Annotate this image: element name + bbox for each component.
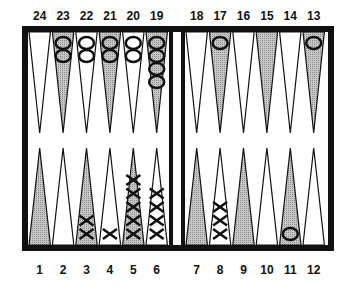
checker-o[interactable] — [149, 63, 164, 75]
bar-right-edge — [181, 29, 185, 248]
bar-left-edge — [169, 29, 173, 248]
point-label-22: 22 — [80, 9, 94, 23]
point-label-14: 14 — [284, 9, 298, 23]
point-label-16: 16 — [237, 9, 251, 23]
top-point-labels: 242322212019181716151413 — [33, 9, 321, 23]
checker-o[interactable] — [149, 37, 164, 49]
checker-o[interactable] — [56, 50, 71, 62]
point-label-4: 4 — [107, 263, 114, 277]
point-label-23: 23 — [56, 9, 70, 23]
point-label-21: 21 — [103, 9, 117, 23]
point-label-13: 13 — [307, 9, 321, 23]
point-label-7: 7 — [193, 263, 200, 277]
checker-o[interactable] — [283, 228, 298, 240]
checker-o[interactable] — [149, 76, 164, 88]
point-label-15: 15 — [260, 9, 274, 23]
checker-o[interactable] — [126, 37, 141, 49]
checker-o[interactable] — [79, 50, 94, 62]
checker-o[interactable] — [56, 37, 71, 49]
point-label-11: 11 — [284, 263, 297, 277]
bottom-point-labels: 123456789101112 — [36, 263, 320, 277]
point-label-24: 24 — [33, 9, 47, 23]
checker-o[interactable] — [149, 50, 164, 62]
backgammon-board: 242322212019181716151413 123456789101112 — [0, 0, 347, 287]
point-label-3: 3 — [83, 263, 90, 277]
point-label-19: 19 — [150, 9, 164, 23]
point-label-6: 6 — [153, 263, 160, 277]
checker-o[interactable] — [79, 37, 94, 49]
point-label-12: 12 — [307, 263, 321, 277]
point-label-10: 10 — [260, 263, 274, 277]
point-label-20: 20 — [127, 9, 141, 23]
checker-o[interactable] — [102, 37, 117, 49]
point-label-5: 5 — [130, 263, 137, 277]
checker-o[interactable] — [306, 37, 321, 49]
point-label-8: 8 — [217, 263, 224, 277]
checker-o[interactable] — [102, 50, 117, 62]
point-label-2: 2 — [60, 263, 67, 277]
point-label-17: 17 — [213, 9, 227, 23]
point-label-18: 18 — [190, 9, 204, 23]
point-label-1: 1 — [36, 263, 43, 277]
checker-o[interactable] — [126, 50, 141, 62]
point-label-9: 9 — [240, 263, 247, 277]
checker-o[interactable] — [213, 37, 228, 49]
